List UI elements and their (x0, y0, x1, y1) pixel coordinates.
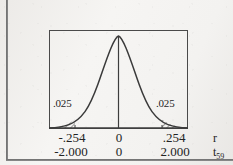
t-tick-negative: -2.000 (43, 145, 99, 159)
page-border-left (6, 0, 8, 161)
page-border-bottom (6, 159, 233, 161)
distribution-curve-plot (49, 30, 188, 129)
alpha-label-right-tail: .025 (156, 98, 174, 109)
alpha-label-left-tail: .025 (53, 98, 71, 109)
axis-name-t: t59 (213, 145, 224, 161)
figure-page: .025 .025 -.254 0 .254 r -2.000 0 2.000 … (0, 0, 233, 165)
t-tick-zero: 0 (111, 145, 127, 159)
r-tick-zero: 0 (111, 131, 127, 145)
axis-name-t-subscript: 59 (216, 152, 224, 161)
t-tick-positive: 2.000 (149, 145, 201, 159)
r-tick-negative: -.254 (49, 131, 95, 145)
r-tick-positive: .254 (153, 131, 195, 145)
axis-row-r: -.254 0 .254 r (41, 131, 233, 145)
axis-name-r: r (213, 131, 217, 145)
axis-row-t: -2.000 0 2.000 t59 (41, 145, 233, 159)
